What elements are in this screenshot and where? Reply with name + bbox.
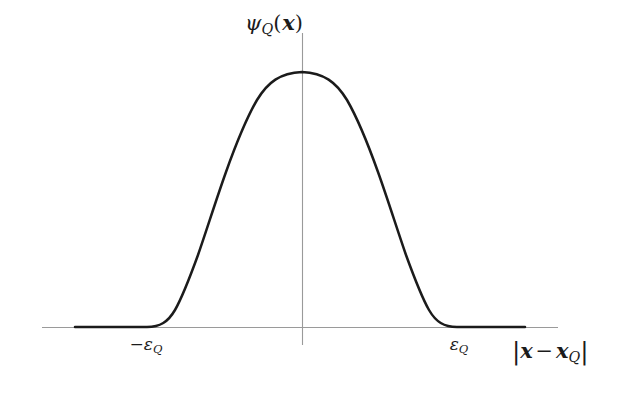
- y-axis-label: ψQ(x): [245, 12, 303, 34]
- figure-canvas: ψQ(x) |x−xQ| −εQ εQ: [0, 0, 634, 396]
- tick-label-left-symbol: ε: [144, 334, 153, 354]
- x-axis-label-right-bar: |: [580, 336, 588, 365]
- bump-function-plot: [0, 0, 634, 396]
- x-axis-label-first-term: x: [520, 338, 533, 363]
- tick-label-negative-epsilon-q: −εQ: [115, 336, 177, 353]
- tick-label-left-subscript: Q: [153, 342, 162, 356]
- tick-label-positive-epsilon-q: εQ: [428, 336, 490, 353]
- x-axis-label: |x−xQ|: [512, 338, 589, 363]
- y-axis-label-argument: x: [282, 10, 295, 35]
- y-axis-label-close-paren: ): [295, 11, 303, 35]
- y-axis-label-open-paren: (: [273, 11, 282, 35]
- tick-label-right-subscript: Q: [459, 342, 468, 356]
- y-axis-label-symbol: ψ: [245, 11, 261, 35]
- tick-label-left-minus: −: [130, 334, 144, 354]
- x-axis-label-second-subscript: Q: [568, 349, 580, 365]
- x-axis-label-operator: −: [533, 339, 556, 363]
- tick-label-right-symbol: ε: [450, 334, 459, 354]
- x-axis-label-second-term: x: [556, 338, 569, 363]
- y-axis-label-subscript: Q: [261, 21, 273, 37]
- x-axis-label-left-bar: |: [512, 336, 520, 365]
- bump-curve: [75, 72, 525, 327]
